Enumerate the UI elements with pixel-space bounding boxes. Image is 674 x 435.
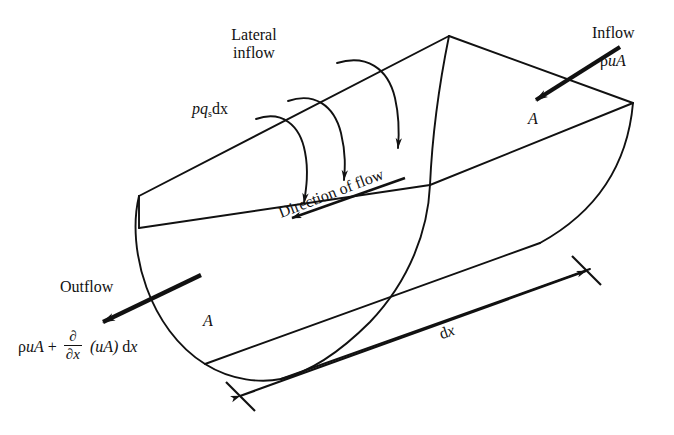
inflow-rho-symbol: ρ (600, 52, 608, 69)
lateral-inflow-arrow-3 (337, 60, 399, 148)
lateral-inflow-symbol-pre: pq (192, 100, 208, 117)
lateral-inflow-label-line1: Lateral (198, 26, 310, 44)
outflow-eq-plus: + (48, 338, 57, 356)
inflow-expression: ρuA (600, 52, 626, 70)
lateral-inflow-label-line2: inflow (198, 44, 310, 62)
dx-tick-left (226, 382, 255, 411)
control-volume-diagram (0, 0, 674, 435)
lateral-inflow-arrow-2 (288, 98, 345, 180)
outflow-eq-denominator: ∂x (64, 347, 82, 362)
area-label-far-section: A (528, 110, 538, 128)
lateral-inflow-symbol-post: dx (212, 100, 228, 117)
outflow-eq-numerator: ∂ (67, 329, 78, 344)
lateral-inflow-symbol: pqsdx (192, 100, 228, 119)
outflow-arrow (103, 275, 201, 322)
near-section-outer-curve (136, 196, 281, 381)
dx-dimension (226, 256, 601, 411)
far-section-inner-curve (430, 36, 449, 185)
inflow-label: Inflow (592, 24, 635, 42)
outflow-label: Outflow (60, 278, 113, 296)
dx-tick-right (572, 256, 601, 285)
outflow-eq-group: (uA) (90, 338, 118, 356)
outflow-eq-fraction: ∂ ∂x (64, 329, 82, 362)
area-label-near-section: A (203, 312, 213, 330)
far-section-outer-curve (540, 103, 633, 243)
outflow-eq-ua: uA (26, 338, 44, 356)
outflow-eq-rho: ρ (18, 338, 26, 356)
figure-canvas: Lateral inflow pqsdx Inflow ρuA A A Outf… (0, 0, 674, 435)
lateral-inflow-arrow-1 (256, 116, 307, 203)
lateral-inflow-label: Lateral inflow (198, 26, 310, 62)
outflow-equation: ρuA + ∂ ∂x (uA) dx (18, 330, 137, 363)
inflow-ua-symbol: uA (608, 52, 626, 69)
outflow-eq-tail-x: x (130, 338, 137, 356)
